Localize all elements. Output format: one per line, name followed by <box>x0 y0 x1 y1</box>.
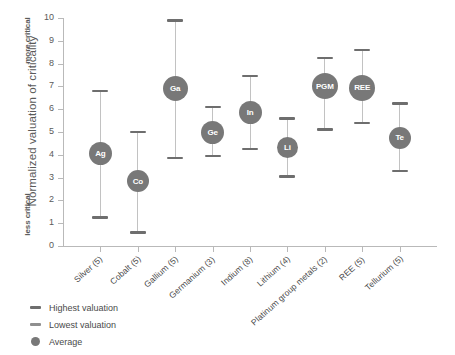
average-bubble[interactable]: Ge <box>201 121 224 144</box>
x-axis-label: Gallium (5) <box>142 254 180 290</box>
lowest-valuation-marker[interactable] <box>392 170 408 173</box>
highest-valuation-marker[interactable] <box>279 117 295 120</box>
legend-item-label: Lowest valuation <box>49 320 116 330</box>
highest-valuation-marker[interactable] <box>92 90 108 93</box>
y-tick-label-text: 7 <box>40 81 54 90</box>
y-tick-label-text: 0 <box>40 241 54 250</box>
highest-valuation-marker[interactable] <box>205 106 221 109</box>
average-bubble[interactable]: PGM <box>312 73 338 99</box>
x-axis-label: Indium (8) <box>219 254 254 287</box>
x-axis-label: Cobalt (5) <box>108 254 143 287</box>
y-tick-label: 6 <box>38 104 54 114</box>
y-tick-label: 7 <box>38 81 54 91</box>
x-tick <box>213 247 214 252</box>
legend-dash-marker <box>28 306 42 309</box>
x-tick <box>138 247 139 252</box>
average-bubble[interactable]: Ag <box>89 142 112 165</box>
legend-dash-icon <box>30 306 41 309</box>
average-bubble[interactable]: Te <box>389 127 411 149</box>
plot-area: AgCoGaGeInLiPGMREETe <box>63 18 437 246</box>
x-tick <box>400 247 401 252</box>
highest-valuation-marker[interactable] <box>392 102 408 105</box>
legend-item[interactable]: Highest valuation <box>28 300 208 315</box>
y-tick-label: 4 <box>38 150 54 160</box>
y-tick-label-text: 4 <box>40 150 54 159</box>
y-tick-label-text: 10 <box>40 13 54 22</box>
average-bubble[interactable]: Ga <box>163 76 188 101</box>
y-tick-label-text: 8 <box>40 59 54 68</box>
x-tick <box>250 247 251 252</box>
y-tick-label-text: 6 <box>40 104 54 113</box>
criticality-chart: Normalized valuation of criticality more… <box>0 0 455 355</box>
x-axis-label: Tellurium (5) <box>363 254 405 293</box>
average-bubble[interactable]: In <box>239 101 262 124</box>
lowest-valuation-marker[interactable] <box>205 155 221 158</box>
x-axis-label: Platinum group metals (2) <box>249 254 329 327</box>
y-tick-label-text: 3 <box>40 173 54 182</box>
y-tick-label-text: 2 <box>40 195 54 204</box>
highest-valuation-marker[interactable] <box>167 19 183 22</box>
y-axis-top-label: more critical <box>23 10 32 72</box>
x-axis-label: Lithium (4) <box>255 254 292 289</box>
y-tick-label: 9 <box>38 36 54 46</box>
x-tick <box>287 247 288 252</box>
lowest-valuation-marker[interactable] <box>279 175 295 178</box>
x-tick <box>175 247 176 252</box>
highest-valuation-marker[interactable] <box>242 75 258 78</box>
lowest-valuation-marker[interactable] <box>92 216 108 219</box>
legend-item[interactable]: Average <box>28 334 208 349</box>
legend-dash-icon <box>30 323 41 326</box>
highest-valuation-marker[interactable] <box>354 49 370 52</box>
y-axis-bottom-label: less critical <box>23 184 32 246</box>
x-axis-label: Silver (5) <box>72 254 104 285</box>
lowest-valuation-marker[interactable] <box>167 157 183 160</box>
legend-dot-marker <box>28 337 42 346</box>
chart-legend: Highest valuationLowest valuationAverage <box>28 300 208 351</box>
y-tick-label: 8 <box>38 59 54 69</box>
legend-item[interactable]: Lowest valuation <box>28 317 208 332</box>
lowest-valuation-marker[interactable] <box>130 231 146 234</box>
average-bubble[interactable]: REE <box>349 75 375 101</box>
y-tick <box>58 246 63 247</box>
x-axis-label: REE (5) <box>337 254 366 282</box>
average-bubble[interactable]: Li <box>277 137 298 158</box>
legend-average-dot-icon <box>31 337 40 346</box>
x-tick <box>325 247 326 252</box>
y-tick-label: 2 <box>38 195 54 205</box>
x-tick <box>100 247 101 252</box>
y-tick-label: 5 <box>38 127 54 137</box>
y-tick-label: 1 <box>38 218 54 228</box>
legend-item-label: Highest valuation <box>49 303 118 313</box>
lowest-valuation-marker[interactable] <box>354 122 370 125</box>
y-tick-label: 10 <box>38 13 54 23</box>
x-tick <box>362 247 363 252</box>
y-tick-label: 0 <box>38 241 54 251</box>
y-tick-label-text: 1 <box>40 218 54 227</box>
y-tick-label-text: 5 <box>40 127 54 136</box>
legend-dash-marker <box>28 323 42 326</box>
highest-valuation-marker[interactable] <box>317 57 333 60</box>
legend-item-label: Average <box>49 337 82 347</box>
lowest-valuation-marker[interactable] <box>317 128 333 131</box>
lowest-valuation-marker[interactable] <box>242 148 258 151</box>
y-tick-label-text: 9 <box>40 36 54 45</box>
average-bubble[interactable]: Co <box>127 170 149 192</box>
y-tick-label: 3 <box>38 173 54 183</box>
highest-valuation-marker[interactable] <box>130 131 146 134</box>
